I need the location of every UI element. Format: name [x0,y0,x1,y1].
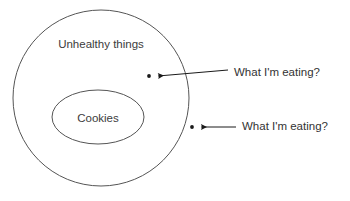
venn-diagram-svg [0,0,350,201]
annotation-arrow-top [158,70,228,76]
outer-set-circle [13,10,189,186]
annotation-label-top: What I'm eating? [234,67,320,79]
diagram-canvas: Unhealthy things Cookies What I'm eating… [0,0,350,201]
inner-set-label: Cookies [77,113,119,125]
data-point-outside-dot [190,125,194,129]
data-point-inside-dot [147,74,151,78]
annotation-label-bottom: What I'm eating? [242,121,328,133]
outer-set-label: Unhealthy things [58,39,144,51]
